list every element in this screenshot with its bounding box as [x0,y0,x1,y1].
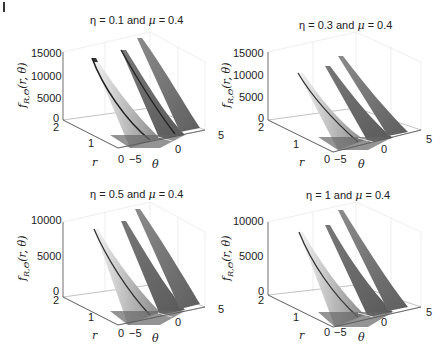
z-axis-label: fR,Θ(r, θ) [220,236,235,281]
r-tick: 0 [118,153,124,165]
z-tick: 5000 [239,91,263,103]
z-tick: 15000 [233,47,264,59]
z-tick: 10000 [31,70,62,82]
theta-tick: −5 [129,327,142,339]
r-tick: 2 [258,294,264,306]
theta-axis-label: θ [358,331,365,344]
r-tick: 0 [324,153,330,165]
theta-tick: −5 [129,153,142,165]
r-axis-label: r [299,329,304,342]
z-tick: 5000 [37,250,61,262]
panel-title: η = 0.5 and μ = 0.4 [90,188,183,201]
z-tick: 10000 [233,215,264,227]
panel-title: η = 0.1 and μ = 0.4 [90,14,183,27]
r-tick: 2 [53,294,59,306]
theta-tick: 0 [175,316,181,328]
theta-axis-label: θ [152,158,159,171]
r-axis-label: r [92,329,97,342]
r-tick: 2 [258,121,264,133]
r-tick: 1 [88,137,94,149]
r-tick: 1 [293,138,299,150]
z-tick: 5000 [239,250,263,262]
r-tick: 0 [324,326,330,338]
plot-panel-4: η = 1 and μ = 0.4 10000 5000 0 2 1 0 −5 … [223,177,446,354]
z-axis-label: fR,Θ(r, θ) [220,63,235,108]
plot-panel-2: η = 0.3 and μ = 0.4 15000 10000 5000 0 2… [223,0,446,177]
theta-tick: 5 [426,306,432,318]
theta-axis-label: θ [152,332,159,345]
theta-tick: −5 [334,153,347,165]
z-axis-label: fR,Θ(r, θ) [16,63,31,108]
plot-panel-1: η = 0.1 and μ = 0.4 15000 10000 5000 0 2… [0,0,223,177]
surface-plot [0,177,223,354]
z-tick: 10000 [233,69,264,81]
theta-tick: 0 [381,143,387,155]
panel-title: η = 0.3 and μ = 0.4 [299,19,392,32]
plot-panel-3: η = 0.5 and μ = 0.4 10000 5000 0 2 1 0 −… [0,177,223,354]
theta-tick: 0 [175,143,181,155]
r-tick: 0 [118,327,124,339]
z-tick: 5000 [37,92,61,104]
theta-tick: 5 [426,133,432,145]
r-tick: 1 [293,311,299,323]
theta-axis-label: θ [358,158,365,171]
theta-tick: 0 [381,316,387,328]
r-tick: 2 [53,121,59,133]
z-tick: 10000 [31,214,62,226]
z-tick: 15000 [31,47,62,59]
r-axis-label: r [92,156,97,169]
z-axis-label: fR,Θ(r, θ) [16,236,31,281]
theta-tick: −5 [334,326,347,338]
panel-title: η = 1 and μ = 0.4 [306,189,390,202]
r-axis-label: r [299,156,304,169]
r-tick: 1 [88,311,94,323]
